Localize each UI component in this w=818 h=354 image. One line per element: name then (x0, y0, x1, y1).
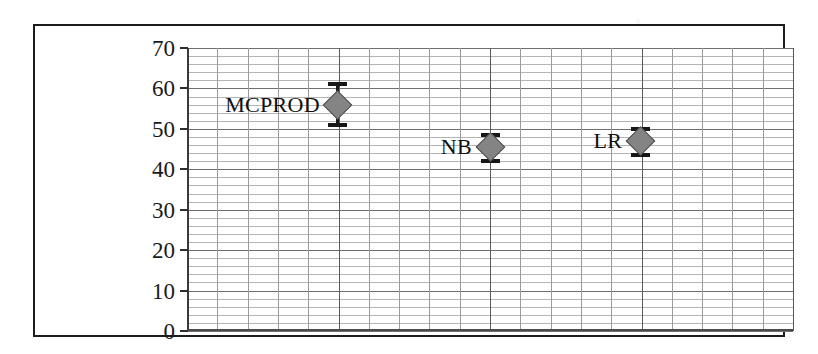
gridline-minor-h (187, 299, 793, 300)
gridline-minor-v (369, 48, 370, 331)
gridline-major-v (642, 48, 643, 331)
gridline-minor-h (187, 282, 793, 283)
gridline-minor-h (187, 64, 793, 65)
horizontal-gridlines (187, 48, 793, 331)
y-axis-tick-marks (187, 48, 793, 331)
gridline-minor-v (217, 48, 218, 331)
gridline-minor-h (187, 307, 793, 308)
y-axis-tick-label: 20 (97, 239, 175, 262)
gridline-minor-v (611, 48, 612, 331)
errorbar-line (639, 129, 642, 155)
errorbar-cap-top (631, 127, 650, 131)
gridline-major-h (187, 291, 793, 292)
gridline-minor-h (187, 234, 793, 235)
data-series-layer: MCPRODNBLR (187, 48, 793, 331)
series-label: MCPROD (225, 92, 320, 118)
gridline-minor-h (187, 137, 793, 138)
y-axis-tick-label: 60 (97, 77, 175, 100)
gridline-major-h (187, 129, 793, 130)
data-point-group[interactable] (640, 48, 641, 331)
errorbar-cap-top (328, 82, 347, 86)
gridline-minor-v (460, 48, 461, 331)
errorbar-line (336, 84, 339, 124)
errorbar-line (489, 135, 492, 161)
gridline-minor-h (187, 177, 793, 178)
marker-diamond[interactable] (625, 126, 655, 156)
gridline-minor-v (399, 48, 400, 331)
data-point-group[interactable] (490, 48, 491, 331)
gridline-minor-h (187, 323, 793, 324)
errorbar-cap-bottom (481, 159, 500, 163)
y-axis-tick-labels: 010203040506070 (97, 26, 175, 335)
gridline-minor-h (187, 145, 793, 146)
marker-diamond[interactable] (475, 132, 505, 162)
errorbar-cap-top (481, 133, 500, 137)
gridline-major-v (793, 48, 794, 331)
x-axis-line (187, 329, 793, 331)
gridline-minor-v (581, 48, 582, 331)
gridline-minor-h (187, 266, 793, 267)
gridline-minor-h (187, 258, 793, 259)
gridline-minor-v (520, 48, 521, 331)
gridline-minor-h (187, 194, 793, 195)
y-axis-tick-label: 70 (97, 37, 175, 60)
gridline-minor-h (187, 161, 793, 162)
gridline-minor-h (187, 242, 793, 243)
plot-area: MCPRODNBLR (187, 48, 793, 331)
gridline-minor-h (187, 153, 793, 154)
y-axis-tick-label: 30 (97, 198, 175, 221)
gridline-minor-h (187, 72, 793, 73)
y-axis-tick-label: 0 (97, 320, 175, 343)
gridline-minor-v (308, 48, 309, 331)
gridline-minor-h (187, 274, 793, 275)
y-axis-tick-label: 50 (97, 117, 175, 140)
errorbar-cap-bottom (328, 123, 347, 127)
gridline-minor-v (278, 48, 279, 331)
gridline-minor-v (248, 48, 249, 331)
gridline-minor-v (702, 48, 703, 331)
y-axis-tick-label: 40 (97, 158, 175, 181)
gridline-minor-h (187, 226, 793, 227)
gridline-minor-h (187, 202, 793, 203)
gridline-minor-h (187, 121, 793, 122)
gridline-minor-h (187, 56, 793, 57)
y-axis-line (187, 48, 189, 331)
gridline-major-h (187, 48, 793, 49)
gridline-major-v (339, 48, 340, 331)
series-label: NB (441, 134, 472, 160)
vertical-gridlines (187, 48, 793, 331)
gridline-major-h (187, 331, 793, 332)
gridline-minor-v (551, 48, 552, 331)
series-label: LR (594, 128, 623, 154)
gridline-minor-h (187, 218, 793, 219)
gridline-minor-h (187, 80, 793, 81)
y-axis-tick-label: 10 (97, 279, 175, 302)
gridline-major-h (187, 88, 793, 89)
gridline-minor-v (672, 48, 673, 331)
gridline-minor-v (763, 48, 764, 331)
gridline-minor-h (187, 185, 793, 186)
marker-diamond[interactable] (323, 90, 353, 120)
gridline-major-h (187, 250, 793, 251)
figure-frame: Accuracy 010203040506070 MCPRODNBLR (33, 24, 785, 337)
data-point-group[interactable] (337, 48, 338, 331)
gridline-minor-v (429, 48, 430, 331)
gridline-major-v (490, 48, 491, 331)
gridline-minor-h (187, 113, 793, 114)
gridline-minor-h (187, 97, 793, 98)
gridline-major-h (187, 169, 793, 170)
errorbar-cap-bottom (631, 153, 650, 157)
gridline-minor-v (732, 48, 733, 331)
gridline-major-h (187, 210, 793, 211)
gridline-minor-h (187, 105, 793, 106)
gridline-minor-h (187, 315, 793, 316)
